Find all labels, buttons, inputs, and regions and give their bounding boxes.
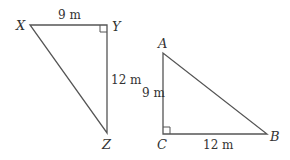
triangle-xyz-shape	[30, 25, 107, 133]
vertex-label-a: A	[157, 36, 167, 51]
vertex-label-c: C	[157, 137, 167, 152]
vertex-label-z: Z	[101, 137, 112, 152]
triangles-diagram: X Y Z 9 m 12 m A B C 9 m 12 m	[0, 0, 290, 160]
right-angle-marker-c	[163, 127, 170, 134]
right-angle-marker-y	[100, 25, 107, 32]
triangle-abc-shape	[163, 53, 267, 134]
vertex-label-b: B	[269, 129, 280, 144]
side-label-yz: 12 m	[111, 73, 142, 87]
side-label-cb: 12 m	[203, 138, 234, 152]
triangle-xyz: X Y Z 9 m 12 m	[15, 8, 142, 152]
side-label-xy: 9 m	[58, 8, 81, 22]
vertex-label-y: Y	[112, 19, 122, 34]
triangle-abc: A B C 9 m 12 m	[142, 36, 280, 152]
vertex-label-x: X	[15, 18, 26, 33]
side-label-ac: 9 m	[142, 86, 165, 100]
